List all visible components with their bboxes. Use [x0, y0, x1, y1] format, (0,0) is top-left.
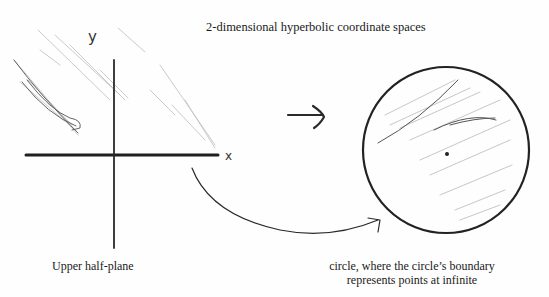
diagram-canvas: 2-dimensional hyperbolic coordinate spac…: [0, 0, 549, 297]
disk-caption: circle, where the circle’s boundary repr…: [322, 259, 502, 287]
y-axis-label: y: [88, 28, 97, 46]
upper-half-plane-dark-strokes: [14, 60, 80, 133]
disk-caption-line-1: circle, where the circle’s boundary: [322, 259, 502, 273]
disk-center-point: [445, 152, 449, 156]
coordinate-axes: [26, 60, 218, 248]
x-axis-label: x: [225, 149, 232, 163]
sketch-drawing: [0, 0, 549, 297]
connector-arrow-icon: [192, 168, 380, 233]
disk-shading: [385, 80, 512, 220]
transform-arrow-icon: [288, 106, 324, 128]
disk-caption-line-2: represents points at infinite: [322, 273, 502, 287]
diagram-title: 2-dimensional hyperbolic coordinate spac…: [206, 20, 426, 34]
upper-half-plane-caption: Upper half-plane: [52, 259, 134, 273]
